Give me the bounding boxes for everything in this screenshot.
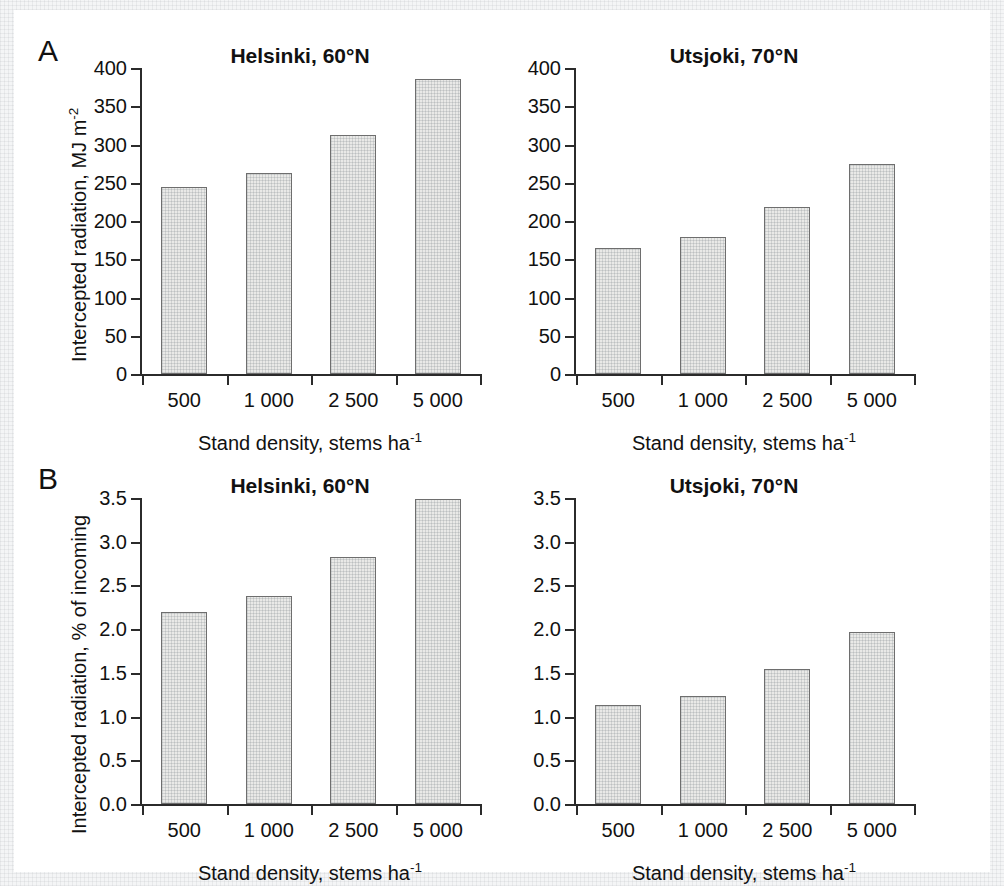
bar-slot [142,68,227,374]
chart-a-utsjoki-title: Utsjoki, 70°N [544,44,924,68]
panel-b-letter: B [38,462,58,496]
x-axis-tick [142,804,144,815]
bar[interactable] [161,612,207,804]
x-axis-tick [745,804,747,815]
chart-b-helsinki-x-title: Stand density, stems ha-1 [140,862,480,885]
y-axis-tick-label: 0.5 [99,749,127,772]
bar[interactable] [764,207,810,374]
y-axis-tick-label: 300 [528,133,561,156]
bar-slot [830,498,915,804]
bar[interactable] [849,632,895,804]
bar-slot [227,498,312,804]
y-axis-tick-label: 300 [94,133,127,156]
x-axis-category-labels: 5001 0002 5005 000 [142,819,480,842]
x-axis-tick [311,374,313,385]
bar[interactable] [415,499,461,804]
y-axis-tick [131,717,142,719]
bar[interactable] [680,696,726,804]
y-axis-tick [565,585,576,587]
y-axis-tick [565,374,576,376]
chart-b-utsjoki-title: Utsjoki, 70°N [544,474,924,498]
bar-group [576,68,914,374]
x-axis-tick [142,374,144,385]
chart-b-helsinki-title: Helsinki, 60°N [110,474,490,498]
bar-group [142,68,480,374]
bar[interactable] [680,237,726,374]
y-axis-tick-label: 200 [94,210,127,233]
y-axis-tick [131,673,142,675]
chart-b-helsinki: Helsinki, 60°N 0.00.51.01.52.02.53.03.55… [110,476,490,860]
y-axis-tick [131,106,142,108]
y-axis-tick [131,68,142,70]
chart-a-utsjoki: Utsjoki, 70°N 05010015020025030035040050… [544,46,924,430]
chart-b-helsinki-title-text: Helsinki, 60 [230,474,346,497]
bar[interactable] [849,164,895,374]
x-title-sup: -1 [844,860,856,875]
y-axis-tick-label: 350 [528,95,561,118]
bar-slot [227,68,312,374]
bar[interactable] [764,669,810,804]
y-axis-tick-label: 3.0 [99,530,127,553]
x-axis-category-labels: 5001 0002 5005 000 [576,389,914,412]
y-axis-tick-label: 2.0 [533,618,561,641]
panel-b: B Helsinki, 60°N 0.00.51.01.52.02.53.03.… [14,442,990,862]
chart-b-utsjoki-x-title: Stand density, stems ha-1 [574,862,914,885]
y-axis-tick-label: 1.5 [99,661,127,684]
y-axis-tick-label: 3.5 [99,487,127,510]
y-axis-tick [565,106,576,108]
x-axis-category-label: 500 [576,819,661,842]
bar[interactable] [415,79,461,374]
bar[interactable] [246,596,292,804]
y-axis-tick-label: 0.0 [99,793,127,816]
y-axis-tick-label: 0.0 [533,793,561,816]
x-axis-tick [227,374,229,385]
y-axis-tick-label: 2.5 [533,574,561,597]
bar[interactable] [161,187,207,374]
x-axis-category-label: 1 000 [661,389,746,412]
bar[interactable] [330,557,376,804]
y-axis-tick-label: 250 [94,171,127,194]
y-axis-tick [565,629,576,631]
y-axis-tick-label: 100 [94,286,127,309]
bar-slot [830,68,915,374]
chart-b-utsjoki-plot: 0.00.51.01.52.02.53.03.55001 0002 5005 0… [574,498,914,806]
bar[interactable] [595,248,641,374]
bar-slot [311,498,396,804]
panel-a: A Helsinki, 60°N 05010015020025030035040… [14,10,990,430]
y-axis-tick [131,221,142,223]
bar[interactable] [246,173,292,374]
y-title-a-sup: -2 [66,108,81,120]
y-axis-tick-label: 400 [94,57,127,80]
bar[interactable] [330,135,376,374]
chart-a-helsinki: Helsinki, 60°N 0501001502002503003504005… [110,46,490,430]
x-axis-tick [480,804,482,815]
y-axis-tick [565,221,576,223]
x-axis-tick [830,374,832,385]
figure-canvas: A Helsinki, 60°N 05010015020025030035040… [14,10,990,872]
y-axis-tick [131,542,142,544]
chart-a-helsinki-title-deg: °N [346,44,370,67]
x-axis-category-label: 2 500 [745,819,830,842]
bar-slot [311,68,396,374]
x-axis-category-label: 1 000 [227,389,312,412]
y-axis-tick [131,298,142,300]
bar[interactable] [595,705,641,804]
x-axis-category-label: 500 [142,389,227,412]
bar-slot [661,68,746,374]
chart-a-helsinki-title: Helsinki, 60°N [110,44,490,68]
chart-a-utsjoki-title-deg: °N [775,44,799,67]
chart-b-utsjoki-title-text: Utsjoki, 70 [670,474,775,497]
x-axis-tick [396,804,398,815]
bar-slot [142,498,227,804]
x-axis-tick [661,804,663,815]
x-title-text: Stand density, stems ha [632,862,844,884]
chart-a-helsinki-title-text: Helsinki, 60 [230,44,346,67]
y-axis-tick [131,336,142,338]
y-axis-tick [565,717,576,719]
x-axis-category-labels: 5001 0002 5005 000 [142,389,480,412]
y-axis-tick-label: 250 [528,171,561,194]
y-axis-tick-label: 200 [528,210,561,233]
y-axis-tick [565,259,576,261]
y-axis-tick-label: 100 [528,286,561,309]
y-axis-tick [565,336,576,338]
